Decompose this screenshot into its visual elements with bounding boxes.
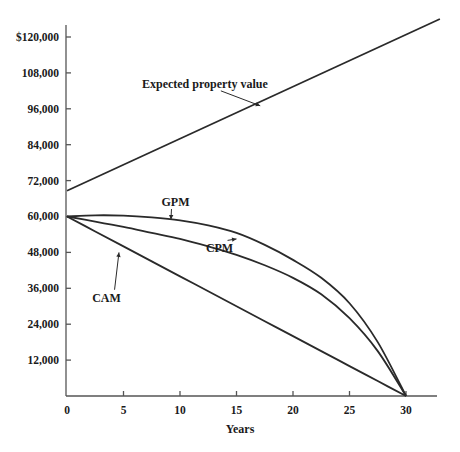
y-tick-label: 96,000 bbox=[27, 103, 59, 115]
x-tick-label: 20 bbox=[287, 404, 299, 416]
expected-property-value-label: Expected property value bbox=[142, 77, 268, 91]
gpm-label: GPM bbox=[161, 195, 189, 209]
y-tick-label: 36,000 bbox=[27, 282, 59, 294]
cpm-label: CPM bbox=[206, 241, 233, 255]
expected-property-value-line bbox=[67, 19, 440, 191]
x-tick-label: 0 bbox=[64, 404, 70, 416]
x-axis-title: Years bbox=[226, 422, 255, 436]
annotation-arrow bbox=[221, 91, 260, 106]
y-axis: 12,00024,00036,00048,00060,00072,00084,0… bbox=[16, 25, 71, 396]
plot-series bbox=[67, 19, 440, 396]
x-tick-label: 5 bbox=[121, 404, 127, 416]
y-tick-label: 48,000 bbox=[27, 246, 59, 258]
x-tick-label: 10 bbox=[174, 404, 186, 416]
x-axis: 051015202530 bbox=[64, 391, 437, 416]
annotation-arrow bbox=[115, 252, 119, 289]
x-tick-label: 30 bbox=[400, 404, 412, 416]
y-tick-label: 108,000 bbox=[22, 67, 60, 79]
y-tick-label: 24,000 bbox=[27, 318, 59, 330]
x-tick-label: 15 bbox=[231, 404, 243, 416]
x-tick-label: 25 bbox=[344, 404, 356, 416]
y-tick-label: 60,000 bbox=[27, 210, 59, 222]
y-tick-label: 12,000 bbox=[27, 354, 59, 366]
y-tick-label: 84,000 bbox=[27, 139, 59, 151]
y-tick-label: 72,000 bbox=[27, 175, 59, 187]
chart: 12,00024,00036,00048,00060,00072,00084,0… bbox=[0, 0, 460, 452]
cam-label: CAM bbox=[92, 291, 121, 305]
arrowhead-icon bbox=[232, 238, 237, 242]
cam-line bbox=[67, 216, 406, 396]
y-tick-label: $120,000 bbox=[16, 31, 59, 43]
